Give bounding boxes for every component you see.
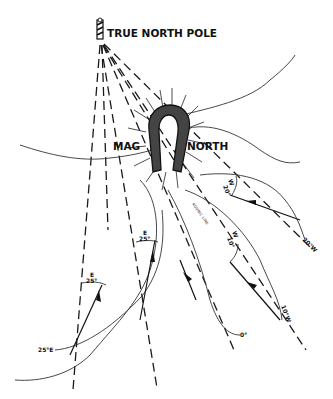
- mag-label: MAG: [113, 140, 140, 152]
- declination-value-1: 25°: [86, 277, 97, 284]
- compass-needles: [70, 195, 300, 355]
- true-north-label: TRUE NORTH POLE: [107, 27, 217, 39]
- isogonic-label-0: 0°: [240, 331, 247, 338]
- isogonic-label-20w: 20°W: [301, 236, 319, 254]
- isogonic-label-25e: 25°E: [38, 346, 53, 353]
- north-pole-icon: [97, 18, 103, 39]
- agonic-line-label: AGONIC LINE: [191, 202, 209, 226]
- horseshoe-magnet-icon: [149, 105, 190, 172]
- isogonic-lines: [15, 55, 305, 380]
- north-label: NORTH: [187, 140, 228, 152]
- declination-value-2: 25°: [139, 235, 150, 242]
- true-meridians: [73, 44, 311, 390]
- declination-arcs: [82, 176, 238, 285]
- declination-diagram: TRUE NORTH POLE: [0, 0, 333, 399]
